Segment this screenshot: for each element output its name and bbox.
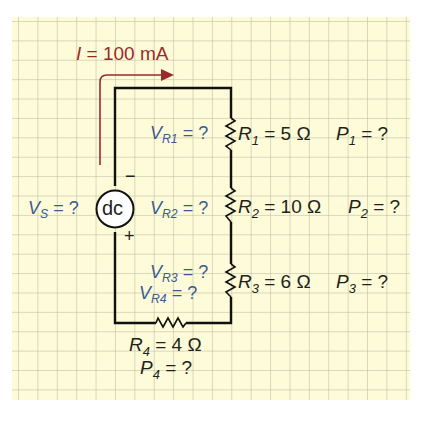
p2-label: P2 = ? <box>348 196 400 221</box>
vr2-symbol: V <box>150 198 162 218</box>
p2-sub: 2 <box>361 206 368 221</box>
vr4-symbol: V <box>139 283 151 303</box>
vr4-label: VR4 = ? <box>139 283 197 306</box>
r1-label: R1 = 5 Ω <box>238 123 311 148</box>
resistor-r3-icon <box>226 264 235 297</box>
current-arrow-icon <box>100 69 174 165</box>
vr3-value: = ? <box>178 262 209 282</box>
r4-symbol: R <box>129 334 143 355</box>
vr3-symbol: V <box>150 262 162 282</box>
r4-label: R4 = 4 Ω <box>129 334 202 359</box>
vs-sub: S <box>40 207 48 221</box>
p4-label: P4 = ? <box>140 357 192 382</box>
vr3-label: VR3 = ? <box>150 262 208 285</box>
source-plus-sign: + <box>124 226 135 247</box>
vr1-symbol: V <box>150 123 162 143</box>
p3-sub: 3 <box>349 281 356 296</box>
r2-label: R2 = 10 Ω <box>238 196 321 221</box>
r1-value: = 5 Ω <box>259 123 311 144</box>
r2-symbol: R <box>238 196 252 217</box>
r4-value: = 4 Ω <box>150 334 202 355</box>
vr2-sub: R2 <box>162 207 178 221</box>
p3-label: P3 = ? <box>336 271 388 296</box>
vr4-value: = ? <box>167 283 198 303</box>
p3-value: = ? <box>356 271 388 292</box>
p1-value: = ? <box>356 123 388 144</box>
dc-source-text: dc <box>102 197 123 220</box>
current-label: I = 100 mA <box>76 43 168 65</box>
p4-symbol: P <box>140 357 153 378</box>
vr1-sub: R1 <box>162 132 178 146</box>
vs-value: = ? <box>48 198 79 218</box>
r3-label: R3 = 6 Ω <box>238 271 311 296</box>
r1-symbol: R <box>238 123 252 144</box>
p1-label: P1 = ? <box>336 123 388 148</box>
p4-value: = ? <box>160 357 192 378</box>
r2-sub: 2 <box>252 206 259 221</box>
p1-sub: 1 <box>349 133 356 148</box>
vr1-label: VR1 = ? <box>150 123 208 146</box>
resistor-r2-icon <box>226 188 235 222</box>
resistor-r4-icon <box>156 318 186 327</box>
current-value: = 100 mA <box>81 43 168 64</box>
source-voltage-label: VS = ? <box>28 198 79 221</box>
r2-value: = 10 Ω <box>259 196 321 217</box>
r3-value: = 6 Ω <box>259 271 311 292</box>
vs-symbol: V <box>28 198 40 218</box>
p1-symbol: P <box>336 123 349 144</box>
p2-symbol: P <box>348 196 361 217</box>
p3-symbol: P <box>336 271 349 292</box>
vr1-value: = ? <box>178 123 209 143</box>
p2-value: = ? <box>368 196 400 217</box>
p4-sub: 4 <box>153 367 160 382</box>
vr2-label: VR2 = ? <box>150 198 208 221</box>
resistor-r1-icon <box>226 118 235 150</box>
vr4-sub: R4 <box>151 292 167 306</box>
r3-symbol: R <box>238 271 252 292</box>
r1-sub: 1 <box>252 133 259 148</box>
source-minus-sign: − <box>125 166 136 187</box>
vr2-value: = ? <box>178 198 209 218</box>
r3-sub: 3 <box>252 281 259 296</box>
